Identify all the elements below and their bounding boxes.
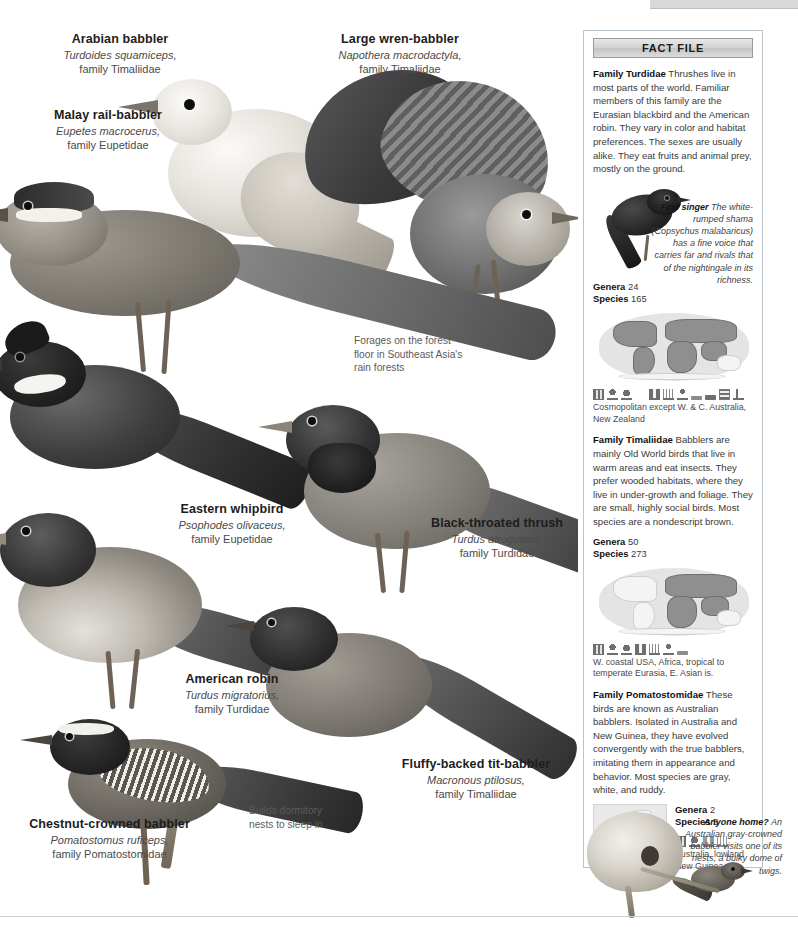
page-bottom-rule xyxy=(0,916,798,917)
bird-malay-rail-babbler xyxy=(0,174,578,404)
habitat-icon-wetland xyxy=(677,389,688,400)
habitat-icon-desert xyxy=(677,651,688,655)
label-family-name: family Timaliidae xyxy=(10,62,230,77)
eye-icon xyxy=(24,202,32,210)
habitat-icons-timaliidae xyxy=(593,642,753,655)
family-body-turdidae: Thrushes live in most parts of the world… xyxy=(593,68,752,174)
note-forages: Forages on the forest floor in Southeast… xyxy=(354,334,466,375)
bird-large-wren-babbler xyxy=(290,64,578,354)
beak-icon xyxy=(0,533,6,545)
beak-icon xyxy=(258,421,292,433)
label-scientific-name: Pomatostomus ruficeps, xyxy=(2,833,217,848)
map-region-africa xyxy=(667,341,697,373)
beak-icon xyxy=(552,212,578,224)
habitat-icon-forest xyxy=(593,644,604,655)
genera-label: Genera xyxy=(593,281,625,292)
label-family-name: family Timaliidae xyxy=(378,787,574,802)
label-common-name: American robin xyxy=(142,671,322,688)
fact-file-panel: FACT FILE Family Turdidae Thrushes live … xyxy=(583,30,763,868)
note-dormitory: Builds dormitory nests to sleep in xyxy=(249,804,345,831)
nest-illustration-block: Anyone home? An Australian gray-crowned … xyxy=(583,800,788,920)
caption-anyone-home: Anyone home? An Australian gray-crowned … xyxy=(678,816,782,877)
species-label: Species xyxy=(593,293,628,304)
label-scientific-name: Turdus migratorius, xyxy=(142,688,322,703)
caption-title: Fine singer xyxy=(660,202,708,212)
label-family-name: family Pomatostomidae xyxy=(2,847,217,862)
map-region-north-america xyxy=(613,576,657,602)
habitat-icon-wetland xyxy=(663,644,674,655)
eye-icon xyxy=(522,210,531,219)
label-common-name: Large wren-babbler xyxy=(280,31,520,48)
habitat-icon-ocean xyxy=(719,389,730,400)
page-top-tab xyxy=(650,0,798,9)
eye-icon xyxy=(66,733,73,740)
beak-icon xyxy=(226,621,254,631)
label-family-name: family Eupetidae xyxy=(142,532,322,547)
eye-icon xyxy=(665,196,669,200)
label-arabian-babbler: Arabian babbler Turdoides squamiceps, fa… xyxy=(10,31,230,77)
range-text-turdidae: Cosmopolitan except W. & C. Australia, N… xyxy=(593,402,753,425)
label-family-name: family Turdidae xyxy=(142,702,322,717)
label-common-name: Malay rail-babbler xyxy=(0,107,224,124)
label-family-name: family Turdidae xyxy=(412,546,578,561)
eye-icon xyxy=(308,417,316,425)
label-fluffy-backed-tit-babbler: Fluffy-backed tit-babbler Macronous ptil… xyxy=(378,756,574,802)
species-label: Species xyxy=(593,548,628,559)
label-common-name: Arabian babbler xyxy=(10,31,230,48)
habitat-icon-scrub xyxy=(649,389,660,400)
family-name-turdidae: Family Turdidae xyxy=(593,68,666,79)
label-large-wren-babbler: Large wren-babbler Napothera macrodactyl… xyxy=(280,31,520,77)
species-value: 165 xyxy=(631,293,647,304)
habitat-icon-tree xyxy=(607,389,618,400)
family-name-pomatostomidae: Family Pomatostomidae xyxy=(593,689,703,700)
label-scientific-name: Napothera macrodactyla, xyxy=(280,48,520,63)
eye-icon xyxy=(22,527,30,535)
caption-text: The white-rumped shama (Copsychus malaba… xyxy=(651,202,753,285)
beak-icon xyxy=(20,735,52,745)
habitat-icon-scrub xyxy=(635,644,646,655)
caption-fine-singer: Fine singer The white-rumped shama (Cops… xyxy=(647,201,753,286)
family-name-timaliidae: Family Timaliidae xyxy=(593,434,673,445)
eye-icon xyxy=(16,353,24,361)
map-region-australia xyxy=(717,355,741,371)
map-region-antarctica xyxy=(619,373,725,380)
map-region-antarctica xyxy=(619,628,725,635)
illustration-plate: Arabian babbler Turdoides squamiceps, fa… xyxy=(0,9,578,917)
beak-icon xyxy=(0,359,2,371)
family-body-pomatostomidae: These birds are known as Australian babb… xyxy=(593,689,744,795)
label-common-name: Chestnut-crowned babbler xyxy=(2,816,217,833)
genera-value: 50 xyxy=(628,536,638,547)
section-timaliidae-text: Family Timaliidae Babblers are mainly Ol… xyxy=(593,433,753,528)
label-family-name: family Eupetidae xyxy=(0,138,224,153)
beak-icon xyxy=(0,208,8,222)
range-text-timaliidae: W. coastal USA, Africa, tropical to temp… xyxy=(593,657,753,680)
map-region-eurasia xyxy=(665,319,737,343)
map-region-africa xyxy=(667,596,697,628)
fact-file-header: FACT FILE xyxy=(593,38,753,58)
map-region-eurasia xyxy=(665,574,737,598)
section-turdidae-text: Family Turdidae Thrushes live in most pa… xyxy=(593,67,753,176)
habitat-icon-grass xyxy=(649,644,660,655)
family-body-timaliidae: Babblers are mainly Old World birds that… xyxy=(593,434,753,527)
label-scientific-name: Psophodes olivaceus, xyxy=(142,518,322,533)
habitat-icon-shrub xyxy=(621,389,632,400)
label-american-robin: American robin Turdus migratorius, famil… xyxy=(142,671,322,717)
caption-title: Anyone home? xyxy=(704,817,769,827)
page-root: Arabian babbler Turdoides squamiceps, fa… xyxy=(0,0,798,927)
bird-arabian-babbler xyxy=(140,57,390,347)
stats-timaliidae: Genera 50 Species 273 xyxy=(593,536,753,561)
habitat-icon-grass xyxy=(663,389,674,400)
eye-icon xyxy=(268,619,275,626)
genera-label: Genera xyxy=(593,536,625,547)
nest-illustration xyxy=(587,812,683,892)
habitat-icon-coast xyxy=(705,395,716,400)
label-black-throated-thrush: Black-throated thrush Turdus atrogularis… xyxy=(412,515,578,561)
label-eastern-whipbird: Eastern whipbird Psophodes olivaceus, fa… xyxy=(142,501,322,547)
habitat-icon-forest xyxy=(593,389,604,400)
label-common-name: Eastern whipbird xyxy=(142,501,322,518)
label-common-name: Black-throated thrush xyxy=(412,515,578,532)
label-scientific-name: Turdus atrogularis, xyxy=(412,532,578,547)
habitat-icon-conifer xyxy=(635,389,646,400)
habitat-icon-urban xyxy=(733,389,744,400)
map-region-north-america xyxy=(613,321,657,347)
